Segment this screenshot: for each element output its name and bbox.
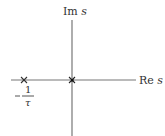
real-label-var: s: [157, 74, 163, 87]
fraction-denominator: τ: [25, 98, 31, 108]
imag-label-text: Im: [63, 5, 78, 18]
real-axis-label: Re s: [139, 75, 163, 86]
imaginary-axis-label: Im s: [63, 6, 87, 17]
imag-label-var: s: [81, 5, 87, 18]
fraction-numerator: 1: [25, 85, 31, 95]
real-label-text: Re: [139, 74, 154, 87]
origin-dot: [71, 79, 74, 82]
pole-zero-plot: [0, 0, 165, 136]
